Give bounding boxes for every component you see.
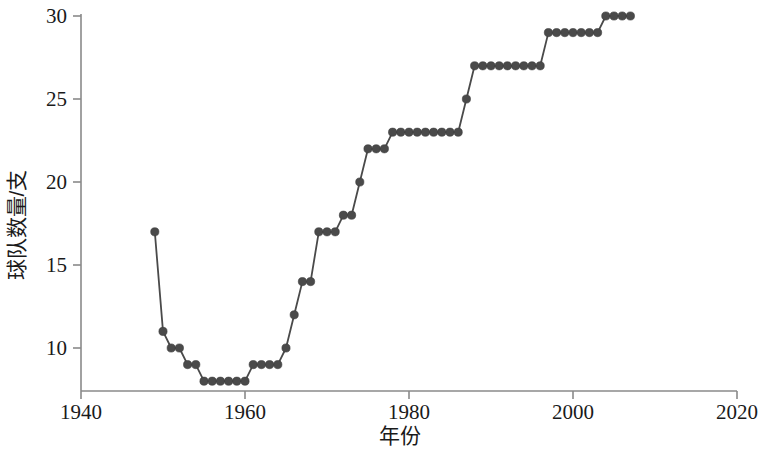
data-point — [298, 278, 306, 286]
data-point — [528, 62, 536, 70]
line-chart: 1015202530 19401960198020002020 球队数量/支 年… — [0, 0, 758, 450]
data-point — [544, 28, 552, 36]
data-point — [405, 128, 413, 136]
data-point — [282, 344, 290, 352]
data-point — [389, 128, 397, 136]
data-point — [200, 377, 208, 385]
data-point — [339, 211, 347, 219]
data-point — [536, 62, 544, 70]
data-point — [462, 95, 470, 103]
data-point — [594, 28, 602, 36]
data-point — [307, 278, 315, 286]
data-point — [208, 377, 216, 385]
data-point — [610, 12, 618, 20]
data-point — [380, 145, 388, 153]
data-point — [175, 344, 183, 352]
data-point — [192, 361, 200, 369]
data-point — [233, 377, 241, 385]
y-tick-label: 20 — [46, 170, 67, 194]
data-point — [569, 28, 577, 36]
x-tick-label: 2020 — [716, 400, 758, 424]
data-point — [561, 28, 569, 36]
data-point — [577, 28, 585, 36]
data-point — [249, 361, 257, 369]
data-point — [225, 377, 233, 385]
data-point — [487, 62, 495, 70]
data-point — [241, 377, 249, 385]
y-tick-label: 10 — [46, 336, 67, 360]
y-tick-label: 25 — [46, 87, 67, 111]
data-point — [553, 28, 561, 36]
data-point — [159, 327, 167, 335]
data-point — [618, 12, 626, 20]
x-axis-title: 年份 — [379, 424, 421, 447]
data-point — [421, 128, 429, 136]
data-point — [438, 128, 446, 136]
data-point — [446, 128, 454, 136]
data-point — [520, 62, 528, 70]
data-point — [454, 128, 462, 136]
y-tick-label: 15 — [46, 253, 67, 277]
data-point — [323, 228, 331, 236]
data-point — [266, 361, 274, 369]
y-axis-title: 球队数量/支 — [5, 170, 28, 281]
data-point — [430, 128, 438, 136]
data-point — [397, 128, 405, 136]
data-point — [585, 28, 593, 36]
data-point — [315, 228, 323, 236]
data-point — [257, 361, 265, 369]
x-tick-label: 2000 — [552, 400, 594, 424]
data-point — [511, 62, 519, 70]
plot-background — [0, 0, 758, 450]
data-point — [356, 178, 364, 186]
data-point — [503, 62, 511, 70]
data-point — [290, 311, 298, 319]
x-tick-label: 1980 — [388, 400, 430, 424]
data-point — [471, 62, 479, 70]
data-point — [413, 128, 421, 136]
data-point — [151, 228, 159, 236]
x-tick-label: 1960 — [224, 400, 266, 424]
y-tick-label: 30 — [46, 4, 67, 28]
x-tick-label: 1940 — [60, 400, 102, 424]
data-point — [602, 12, 610, 20]
data-point — [216, 377, 224, 385]
data-point — [364, 145, 372, 153]
data-point — [274, 361, 282, 369]
data-point — [372, 145, 380, 153]
data-point — [184, 361, 192, 369]
chart-container: 1015202530 19401960198020002020 球队数量/支 年… — [0, 0, 758, 450]
data-point — [626, 12, 634, 20]
data-point — [167, 344, 175, 352]
data-point — [331, 228, 339, 236]
data-point — [348, 211, 356, 219]
data-point — [495, 62, 503, 70]
data-point — [479, 62, 487, 70]
